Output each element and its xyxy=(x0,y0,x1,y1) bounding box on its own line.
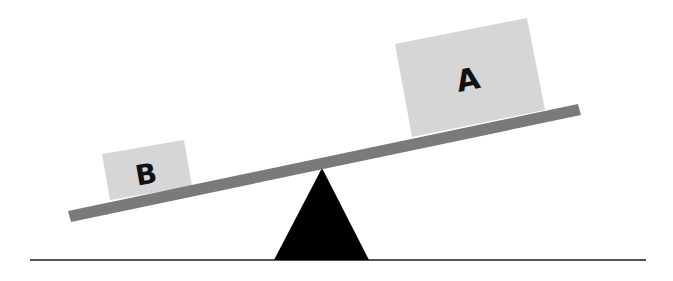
fulcrum-triangle xyxy=(274,168,369,260)
seesaw-diagram: A B xyxy=(0,0,673,281)
